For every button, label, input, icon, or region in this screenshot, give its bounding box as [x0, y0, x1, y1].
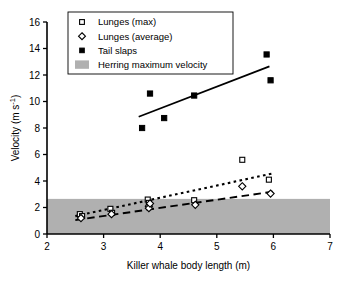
legend-label: Herring maximum velocity — [98, 59, 208, 70]
y-tick-label: 6 — [34, 149, 40, 160]
x-tick-label: 3 — [101, 241, 107, 252]
chart-canvas: 0246810121416234567Killer whale body len… — [0, 0, 350, 286]
data-point-filled-square — [192, 93, 197, 98]
data-point-filled-square — [162, 115, 167, 120]
data-point-filled-square — [80, 48, 85, 53]
y-tick-label: 12 — [29, 70, 41, 81]
x-tick-label: 6 — [271, 241, 277, 252]
y-axis-title: Velocity (m s-1) — [8, 95, 22, 162]
chart-legend: Lunges (max)Lunges (average)Tail slapsHe… — [68, 12, 233, 74]
y-tick-label: 0 — [34, 229, 40, 240]
x-axis-title: Killer whale body length (m) — [127, 260, 250, 271]
data-point-open-square — [240, 157, 245, 162]
data-point-filled-square — [264, 52, 269, 57]
x-tick-label: 2 — [44, 241, 50, 252]
data-point-filled-square — [147, 91, 152, 96]
data-point-open-square — [266, 177, 271, 182]
y-tick-label: 8 — [34, 123, 40, 134]
y-tick-label: 2 — [34, 202, 40, 213]
x-tick-label: 4 — [157, 241, 163, 252]
data-point-filled-square — [268, 78, 273, 83]
x-tick-label: 5 — [214, 241, 220, 252]
data-point-filled-square — [139, 125, 144, 130]
data-point-open-square — [80, 20, 85, 25]
legend-label: Lunges (max) — [98, 16, 156, 27]
legend-swatch-herring-band — [75, 60, 89, 68]
y-tick-label: 16 — [29, 17, 41, 28]
y-tick-label: 14 — [29, 43, 41, 54]
data-point-open-diamond — [267, 190, 274, 197]
x-tick-label: 7 — [327, 241, 333, 252]
legend-label: Lunges (average) — [98, 31, 172, 42]
y-tick-label: 10 — [29, 96, 41, 107]
legend-label: Tail slaps — [98, 45, 137, 56]
y-tick-label: 4 — [34, 176, 40, 187]
trendlines-layer — [75, 66, 274, 220]
data-point-open-diamond — [239, 183, 246, 190]
chart-figure: 0246810121416234567Killer whale body len… — [0, 0, 350, 286]
